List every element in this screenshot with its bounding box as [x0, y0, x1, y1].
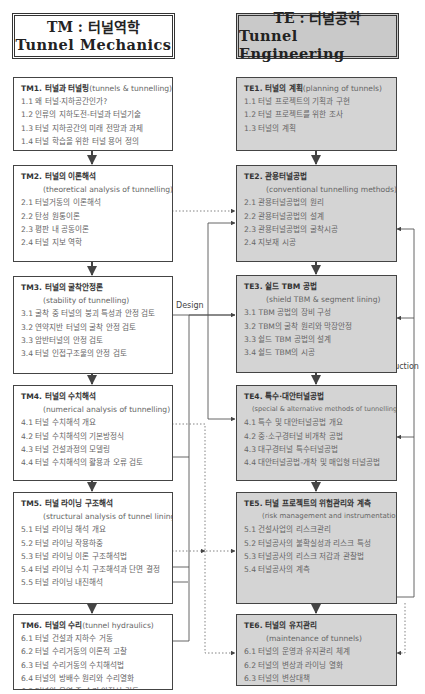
- tm-header-title: TM : 터널역학: [47, 19, 140, 36]
- tm3-title: TM3. 터널의 굴착안정론: [21, 281, 172, 294]
- te5-box: TE5. 터널 프로젝트의 위험관리와 계측 (risk management …: [236, 492, 397, 604]
- list-item: 5.1 터널 라이닝 해석 개요: [21, 523, 172, 536]
- list-item: 1.2 터널 프로젝트를 위한 조사: [244, 108, 396, 121]
- te-header-title: TE : 터널공학: [273, 10, 361, 27]
- tm5-box: TM5. 터널 라이닝 구조해석 (structural analysis of…: [13, 492, 173, 604]
- te6-box: TE6. 터널의 유지관리 (maintenance of tunnels) 6…: [236, 614, 397, 686]
- list-item: 5.3 터널 라이닝 이론 구조해석법: [21, 550, 172, 563]
- te3-box: TE3. 쉴드 TBM 공법 (shield TBM & segment lin…: [236, 275, 397, 373]
- te4-title: TE4. 특수·대안터널공법: [244, 390, 396, 403]
- te1-box: TE1. 터널의 계획(planning of tunnels) 1.1 터널 …: [236, 77, 397, 151]
- tm2-title: TM2. 터널의 이론해석: [21, 170, 172, 183]
- list-item: 2.2 탄성 원통이론: [21, 210, 172, 223]
- list-item: 5.3 터널공사의 리스크 저감과 관찰법: [244, 550, 396, 563]
- list-item: 4.3 대구경터널 특수터널공법: [244, 443, 396, 456]
- te4-subtitle: (special & alternative methods of tunnel…: [244, 403, 396, 416]
- list-item: 3.3 암반터널의 안정 검토: [21, 334, 172, 347]
- list-item: 3.1 TBM 공법의 장비 구성: [244, 306, 396, 319]
- list-item: 6.1 터널의 운영과 유지관리 체계: [244, 645, 396, 658]
- tm-header: TM : 터널역학 Tunnel Mechanics: [12, 13, 175, 59]
- list-item: 2.1 터널거동의 이론해석: [21, 196, 172, 209]
- te1-title: TE1. 터널의 계획(planning of tunnels): [244, 82, 396, 95]
- list-item: 6.2 터널의 변상과 라이닝 열화: [244, 659, 396, 672]
- list-item: 2.4 터널 지보 역학: [21, 236, 172, 249]
- list-item: 6.4 운영 중 터널의 근접영향의 관리: [244, 685, 396, 686]
- tm4-subtitle: (numerical analysis of tunnelling): [21, 403, 172, 416]
- list-item: 5.4 터널공사의 계측: [244, 563, 396, 576]
- list-item: 1.3 터널 지하공간의 미래 전망과 과제: [21, 122, 172, 135]
- list-item: 1.1 터널 프로젝트의 기획과 구현: [244, 95, 396, 108]
- list-item: 1.1 왜 터널·지하공간인가?: [21, 95, 172, 108]
- te6-title: TE6. 터널의 유지관리: [244, 619, 396, 632]
- te3-title: TE3. 쉴드 TBM 공법: [244, 280, 396, 293]
- te2-subtitle: (conventional tunnelling methods): [244, 183, 396, 196]
- tm4-box: TM4. 터널의 수치해석 (numerical analysis of tun…: [13, 385, 173, 481]
- list-item: 3.2 연약지반 터널의 굴착 안정 검토: [21, 321, 172, 334]
- list-item: 3.2 TBM의 굴착 원리와 막장안정: [244, 320, 396, 333]
- list-item: 3.4 터널 인접구조물의 안정 검토: [21, 347, 172, 360]
- list-item: 4.1 터널 수치해석 개요: [21, 416, 172, 429]
- tm4-title: TM4. 터널의 수치해석: [21, 390, 172, 403]
- list-item: 4.2 중·소구경터널 비개착 공법: [244, 430, 396, 443]
- tm-header-subtitle: Tunnel Mechanics: [16, 36, 172, 54]
- tm1-box: TM1. 터널과 터널링(tunnels & tunnelling) 1.1 왜…: [13, 77, 173, 151]
- tm1-title: TM1. 터널과 터널링(tunnels & tunnelling): [21, 82, 172, 95]
- list-item: 4.1 특수 및 대안터널공법 개요: [244, 416, 396, 429]
- tm2-box: TM2. 터널의 이론해석 (theoretical analysis of t…: [13, 165, 173, 262]
- list-item: 5.2 터널공사의 불확실성과 리스크 특성: [244, 537, 396, 550]
- list-item: 2.2 관용터널공법의 설계: [244, 210, 396, 223]
- list-item: 2.3 평판 내 공동이론: [21, 223, 172, 236]
- list-item: 6.1 터널 건설과 지하수 거동: [21, 632, 172, 645]
- list-item: 5.4 터널 라이닝 수치 구조해석과 단면 결정: [21, 563, 172, 576]
- te3-subtitle: (shield TBM & segment lining): [244, 293, 396, 306]
- list-item: 3.4 쉴드 TBM의 시공: [244, 346, 396, 359]
- tm3-box: TM3. 터널의 굴착안정론 (stability of tunnelling)…: [13, 276, 173, 374]
- tm5-subtitle: (structural analysis of tunnel linings): [21, 510, 172, 523]
- list-item: 6.5 터널의 운영 중 수리 안정성 검토: [21, 685, 172, 690]
- tm6-title: TM6. 터널의 수리(tunnel hydraulics): [21, 619, 172, 632]
- list-item: 4.4 대안터널공법-개착 및 매입형 터널공법: [244, 456, 396, 469]
- list-item: 6.2 터널 수리거동의 이론적 고찰: [21, 645, 172, 658]
- list-item: 2.3 관용터널공법의 굴착시공: [244, 223, 396, 236]
- list-item: 3.3 쉴드 TBM 공법의 설계: [244, 333, 396, 346]
- tm2-subtitle: (theoretical analysis of tunnelling): [21, 183, 172, 196]
- te-header-subtitle: Tunnel Engineering: [239, 27, 396, 63]
- list-item: 6.3 터널 수리거동의 수치해석법: [21, 659, 172, 672]
- list-item: 5.1 건설사업의 리스크관리: [244, 523, 396, 536]
- tm5-title: TM5. 터널 라이닝 구조해석: [21, 497, 172, 510]
- te4-box: TE4. 특수·대안터널공법 (special & alternative me…: [236, 385, 397, 481]
- te2-title: TE2. 관용터널공법: [244, 170, 396, 183]
- list-item: 6.4 터널의 방배수 원리와 수리열화: [21, 672, 172, 685]
- list-item: 1.2 인류의 지하도전-터널과 터널기술: [21, 108, 172, 121]
- list-item: 3.1 굴착 중 터널의 붕괴 특성과 안정 검토: [21, 307, 172, 320]
- list-item: 4.4 터널 수치해석의 활용과 오류 검토: [21, 456, 172, 469]
- list-item: 6.3 터널의 변상대책: [244, 672, 396, 685]
- list-item: 5.2 터널 라이닝 작용하중: [21, 537, 172, 550]
- list-item: 2.4 지보재 시공: [244, 236, 396, 249]
- list-item: 1.4 터널 학습을 위한 터널 용어 정의: [21, 135, 172, 148]
- list-item: 5.5 터널 라이닝 내진해석: [21, 576, 172, 589]
- te-header: TE : 터널공학 Tunnel Engineering: [236, 13, 399, 59]
- list-item: 4.2 터널 수치해석의 기본방정식: [21, 430, 172, 443]
- te2-box: TE2. 관용터널공법 (conventional tunnelling met…: [236, 165, 397, 262]
- te6-subtitle: (maintenance of tunnels): [244, 632, 396, 645]
- list-item: 4.3 터널 건설과정의 모델링: [21, 443, 172, 456]
- te5-title: TE5. 터널 프로젝트의 위험관리와 계측: [244, 497, 396, 510]
- tm6-box: TM6. 터널의 수리(tunnel hydraulics) 6.1 터널 건설…: [13, 614, 173, 690]
- tm3-subtitle: (stability of tunnelling): [21, 294, 172, 307]
- design-label: Design: [176, 301, 204, 310]
- te5-subtitle: (risk management and instrumentation): [244, 510, 396, 523]
- list-item: 2.1 관용터널공법의 원리: [244, 196, 396, 209]
- list-item: 1.3 터널의 계획: [244, 122, 396, 135]
